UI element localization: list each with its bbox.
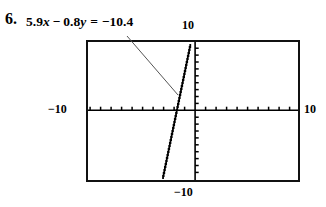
equation-var-y: y xyxy=(80,14,86,29)
plotted-line xyxy=(163,44,190,179)
equation-coef-x: 5.9 xyxy=(26,14,43,29)
equation-coef-y: 0.8 xyxy=(63,14,80,29)
x-min-label: −10 xyxy=(48,103,67,115)
graph-plot xyxy=(88,42,298,180)
y-max-label: 10 xyxy=(182,19,194,31)
equation-var-x: x xyxy=(43,14,50,29)
y-min-label: −10 xyxy=(174,186,193,198)
x-max-label: 10 xyxy=(304,103,316,115)
figure-container: 6. 5.9x−0.8y=−10.4 10 −10 10 −10 xyxy=(0,0,326,207)
axes-group xyxy=(88,42,298,180)
calculator-screen xyxy=(86,40,300,182)
equation-constant: −10.4 xyxy=(102,14,133,29)
equation-minus: − xyxy=(53,14,61,29)
problem-number: 6. xyxy=(5,11,17,27)
equation-label: 5.9x−0.8y=−10.4 xyxy=(26,15,133,29)
equation-equals: = xyxy=(90,14,98,29)
